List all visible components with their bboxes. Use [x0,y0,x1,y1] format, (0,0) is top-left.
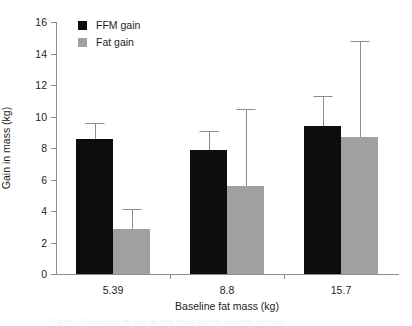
y-axis-tick-mark [51,211,56,212]
error-bar-line [246,109,247,186]
x-axis-tick-mark [284,274,285,279]
y-axis-tick-mark [51,180,56,181]
error-bar-line [323,96,324,126]
error-bar-cap [123,209,142,210]
legend-swatch-square-icon [78,38,87,47]
y-axis-tick-label: 4 [41,206,47,217]
legend-item-ffm-gain: FFM gain [78,17,140,34]
y-axis-tick-label: 0 [41,269,47,280]
y-axis-tick-mark [51,148,56,149]
y-axis-tick-label: 16 [35,17,47,28]
figure-caption: Figure 1 Relation of fat and fat-free ma… [50,317,390,326]
y-axis-tick-mark [51,243,56,244]
x-axis-tick-label: 15.7 [331,285,351,296]
legend-item-label: FFM gain [96,20,140,31]
legend: FFM gain Fat gain [78,17,140,51]
legend-swatch-square-icon [78,21,87,30]
legend-item-fat-gain: Fat gain [78,34,140,51]
y-axis-tick-label: 14 [35,48,47,59]
bar-ffm-gain [190,150,227,274]
y-axis-tick-label: 12 [35,80,47,91]
error-bar-cap [351,41,370,42]
y-axis-tick-mark [51,274,56,275]
bar-ffm-gain [76,139,113,274]
x-axis-label: Baseline fat mass (kg) [175,300,279,312]
x-axis-line [56,274,399,275]
y-axis-tick-label: 6 [41,174,47,185]
bar-fat-gain [227,186,264,274]
x-axis-tick-label: 5.39 [103,285,123,296]
error-bar-cap [86,123,105,124]
error-bar-cap [200,131,219,132]
y-axis-tick-label: 8 [41,143,47,154]
y-axis-tick-mark [51,117,56,118]
y-axis-tick-mark [51,22,56,23]
x-axis-tick-label: 8.8 [220,285,235,296]
error-bar-line [95,123,96,139]
bar-fat-gain [341,137,378,274]
error-bar-line [360,41,361,137]
y-axis-tick-label: 10 [35,111,47,122]
y-axis-tick-mark [51,85,56,86]
y-axis-tick-mark [51,54,56,55]
bar-fat-gain [113,229,150,274]
plot-area: 0246810121416 [56,22,398,274]
legend-item-label: Fat gain [96,37,134,48]
error-bar-cap [314,96,333,97]
y-axis-label: Gain in mass (kg) [0,107,12,189]
y-axis-tick-label: 2 [41,237,47,248]
bar-ffm-gain [304,126,341,274]
x-axis-tick-mark [170,274,171,279]
error-bar-cap [237,109,256,110]
figure-bar-chart: Gain in mass (kg) Baseline fat mass (kg)… [0,0,412,326]
error-bar-line [132,209,133,229]
error-bar-line [209,131,210,150]
